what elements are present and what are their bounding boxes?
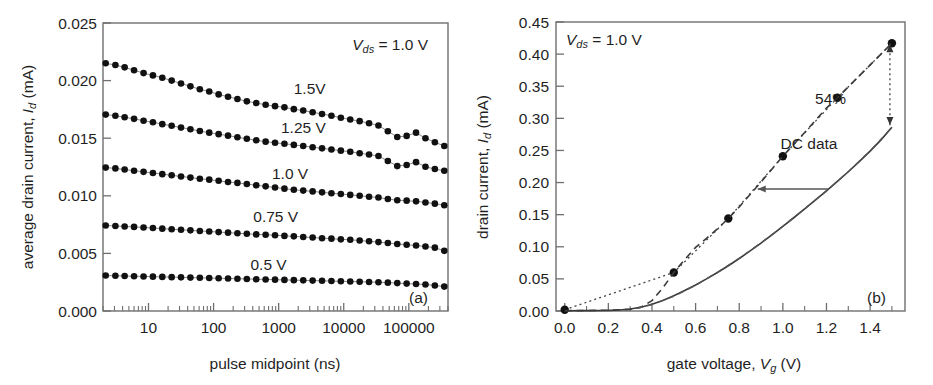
y-tick-label-a-0: 0.000 [58, 303, 97, 320]
data-point [394, 280, 401, 287]
data-point [338, 278, 345, 285]
data-point [309, 188, 316, 195]
data-point [234, 230, 241, 237]
y-axis-b: 0.000.050.100.150.200.250.300.350.400.45 [519, 14, 564, 320]
data-point [366, 151, 373, 158]
data-point [413, 129, 420, 136]
data-point [225, 132, 232, 139]
series-label-a-4: 0.5 V [250, 256, 287, 273]
data-point [215, 91, 222, 98]
y-tick-label-b-8: 0.40 [519, 46, 550, 63]
data-point [375, 122, 382, 129]
data-point [300, 277, 307, 284]
data-point [150, 273, 157, 280]
data-point [281, 233, 288, 240]
data-point [432, 244, 439, 251]
y-tick-label-b-2: 0.10 [519, 238, 550, 255]
data-point [300, 107, 307, 114]
data-point [319, 111, 326, 118]
data-point [441, 283, 448, 290]
data-point [244, 98, 251, 105]
data-point [291, 187, 298, 194]
panel-b: 0.000.050.100.150.200.250.300.350.400.45… [466, 0, 933, 385]
data-point [206, 275, 213, 282]
data-point [215, 178, 222, 185]
data-point [385, 279, 392, 286]
data-point [319, 235, 326, 242]
data-point [150, 170, 157, 177]
data-point [366, 238, 373, 245]
plot-frame-b [556, 22, 905, 311]
series-labels-a: 1.5V1.25 V1.0 V0.75 V0.5 V [250, 80, 326, 272]
series-a-0 [102, 60, 447, 149]
data-point [140, 224, 147, 231]
data-point [328, 112, 335, 119]
data-point [121, 64, 128, 71]
data-point [403, 280, 410, 287]
data-point [131, 167, 138, 174]
x-tick-label-a-4: 100000 [383, 319, 435, 336]
series-a-3 [102, 222, 447, 254]
data-point [413, 198, 420, 205]
data-point [215, 131, 222, 138]
y-tick-label-a-2: 0.010 [58, 187, 97, 204]
data-point [253, 137, 260, 144]
data-point [272, 103, 279, 110]
data-point [403, 133, 410, 140]
y-tick-label-b-5: 0.25 [519, 142, 549, 159]
data-point [272, 232, 279, 239]
data-point [112, 62, 119, 69]
data-point [338, 236, 345, 243]
percent-annotation-b: 54% [815, 90, 846, 107]
data-point [197, 128, 204, 135]
data-point [159, 225, 166, 232]
data-point [413, 242, 420, 249]
x-tick-label-b-6: 1.2 [816, 319, 838, 336]
data-point [356, 237, 363, 244]
callouts-group-b [758, 43, 894, 192]
x-tick-label-b-0: 0.0 [554, 319, 576, 336]
data-point [187, 174, 194, 181]
y-tick-label-b-4: 0.20 [519, 174, 550, 191]
data-point [215, 229, 222, 236]
data-point [309, 277, 316, 284]
data-point [319, 189, 326, 196]
data-point [262, 231, 269, 238]
data-point [150, 225, 157, 232]
data-point [131, 67, 138, 74]
data-point [178, 124, 185, 131]
data-point [244, 276, 251, 283]
data-point [432, 200, 439, 207]
data-point [385, 158, 392, 165]
data-point [328, 190, 335, 197]
data-point [413, 159, 420, 166]
x-tick-label-b-7: 1.4 [859, 319, 881, 336]
y-tick-label-b-0: 0.00 [519, 303, 550, 320]
data-point [441, 143, 448, 150]
data-point [328, 235, 335, 242]
data-point [178, 80, 185, 87]
data-point [366, 279, 373, 286]
data-point [338, 191, 345, 198]
data-point [140, 273, 147, 280]
data-point [347, 237, 354, 244]
data-point [197, 175, 204, 182]
data-point [112, 165, 119, 172]
data-point [394, 241, 401, 248]
y-tick-label-a-4: 0.020 [58, 72, 97, 89]
data-point [385, 128, 392, 135]
data-point [102, 111, 109, 118]
panel-b-svg: 0.000.050.100.150.200.250.300.350.400.45… [466, 0, 933, 385]
data-point [168, 274, 175, 281]
data-point [328, 278, 335, 285]
y-tick-label-b-3: 0.15 [519, 206, 549, 223]
data-point [338, 114, 345, 121]
data-point [281, 140, 288, 147]
series-label-a-3: 0.75 V [253, 208, 298, 225]
data-point [291, 277, 298, 284]
data-point [394, 134, 401, 141]
y-tick-label-b-1: 0.05 [519, 270, 549, 287]
data-point [168, 172, 175, 179]
data-point [281, 185, 288, 192]
data-point [253, 100, 260, 107]
